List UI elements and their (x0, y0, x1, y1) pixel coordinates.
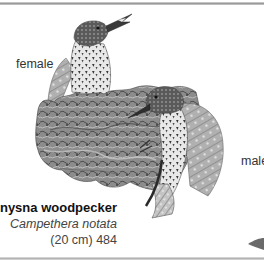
size-and-number: (20 cm) 484 (0, 232, 117, 248)
female-beak (106, 14, 132, 32)
scientific-name: Campethera notata (0, 216, 117, 232)
common-name: Knysna woodpecker (0, 200, 117, 216)
female-body (71, 40, 111, 96)
male-eye (154, 95, 157, 98)
male-label: male (241, 154, 264, 168)
female-head (74, 21, 108, 46)
female-eye (96, 26, 99, 29)
species-caption: Knysna woodpecker Campethera notata (20 … (0, 200, 117, 248)
page-bottom-rule (0, 257, 264, 260)
adjacent-bird-fragment (248, 238, 264, 250)
female-label: female (16, 57, 54, 71)
